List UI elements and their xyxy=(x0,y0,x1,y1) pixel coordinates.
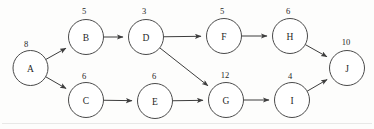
node-label-b: B xyxy=(83,33,89,43)
node-f[interactable]: F5 xyxy=(207,6,242,54)
node-weight-d: 3 xyxy=(142,6,146,16)
node-label-j: J xyxy=(345,64,349,74)
node-weight-h: 6 xyxy=(286,6,290,16)
node-label-f: F xyxy=(221,32,226,42)
node-label-g: G xyxy=(223,96,230,106)
node-weight-j: 10 xyxy=(342,37,351,47)
node-label-a: A xyxy=(27,64,34,74)
node-weight-i: 4 xyxy=(288,71,293,81)
node-weight-c: 6 xyxy=(82,71,86,81)
node-weight-g: 12 xyxy=(221,70,230,80)
edge-d-to-g xyxy=(160,48,208,86)
node-weight-e: 6 xyxy=(152,71,156,81)
graph-svg: A8B5C6D3E6F5G12H6I4J10 xyxy=(0,0,374,129)
edge-a-to-b xyxy=(46,48,66,59)
node-d[interactable]: D3 xyxy=(129,6,164,55)
node-c[interactable]: C6 xyxy=(69,71,104,118)
node-weight-a: 8 xyxy=(24,39,28,49)
edge-i-to-j xyxy=(307,80,327,92)
node-label-i: I xyxy=(290,96,293,106)
node-e[interactable]: E6 xyxy=(138,71,173,119)
node-h[interactable]: H6 xyxy=(273,6,308,54)
node-label-h: H xyxy=(287,32,294,42)
nodes-layer: A8B5C6D3E6F5G12H6I4J10 xyxy=(13,6,365,119)
node-j[interactable]: J10 xyxy=(330,37,365,86)
node-label-c: C xyxy=(83,96,89,106)
diagram-canvas: A8B5C6D3E6F5G12H6I4J10 xyxy=(0,0,374,129)
node-weight-b: 5 xyxy=(82,6,86,16)
edge-a-to-c xyxy=(46,77,66,89)
node-a[interactable]: A8 xyxy=(13,39,48,86)
edge-h-to-j xyxy=(305,45,327,57)
node-i[interactable]: I4 xyxy=(275,71,310,118)
node-label-d: D xyxy=(143,33,150,43)
node-label-e: E xyxy=(152,97,158,107)
node-weight-f: 5 xyxy=(220,6,224,16)
node-g[interactable]: G12 xyxy=(209,70,244,118)
node-b[interactable]: B5 xyxy=(69,6,104,55)
